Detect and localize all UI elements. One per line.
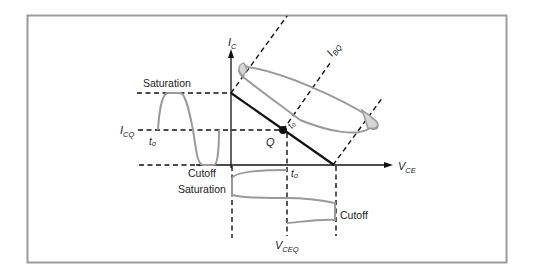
- icq-label: ICQ: [120, 124, 134, 139]
- ellipse-cap-right: [362, 110, 378, 128]
- load-line-diagram: IC VCE Saturation ICQ t₀ Q t₀ IBQ Cutoff…: [0, 0, 534, 276]
- ic-axis-label: IC: [228, 36, 237, 51]
- cutoff-label-left: Cutoff: [188, 167, 216, 179]
- t0-load-label: t₀: [285, 119, 297, 130]
- q-point: [279, 126, 287, 134]
- vceq-label: VCEQ: [275, 239, 299, 254]
- t0-left-label: t₀: [149, 136, 156, 147]
- vce-axis-arrow-icon: [384, 162, 393, 168]
- saturation-projection-line: [231, 16, 287, 93]
- saturation-label-top: Saturation: [143, 77, 191, 89]
- vce-waveform: [232, 170, 335, 223]
- saturation-label-bottom: Saturation: [178, 183, 226, 195]
- ibq-label: IBQ: [324, 40, 344, 60]
- q-point-label: Q: [266, 136, 275, 148]
- vce-axis-label: VCE: [398, 160, 417, 175]
- ic-waveform: [158, 93, 219, 165]
- t0-bottom-label: t₀: [291, 168, 298, 179]
- cutoff-label-right: Cutoff: [340, 209, 368, 221]
- ib-waveform-ellipse: [239, 63, 378, 133]
